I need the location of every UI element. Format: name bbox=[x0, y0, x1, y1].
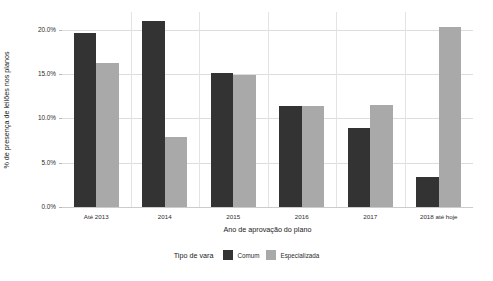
bar-especializada-4[interactable] bbox=[370, 105, 393, 207]
plot-area bbox=[62, 12, 473, 207]
gridline-x bbox=[199, 12, 200, 207]
bar-especializada-5[interactable] bbox=[439, 27, 462, 207]
bar-comum-2[interactable] bbox=[211, 73, 234, 207]
legend-item-comum[interactable]: Comum bbox=[223, 250, 259, 260]
bar-comum-1[interactable] bbox=[142, 21, 165, 207]
y-tick-label: 10.0% bbox=[16, 114, 56, 122]
gridline-x bbox=[336, 12, 337, 207]
chart-figure: % de presença de leilões nos planos 0.0%… bbox=[0, 0, 493, 281]
x-tick-label: 2016 bbox=[268, 212, 337, 221]
legend-title: Tipo de vara bbox=[174, 251, 214, 260]
legend-item-especializada[interactable]: Especializada bbox=[266, 250, 319, 260]
legend-label-especializada: Especializada bbox=[280, 252, 319, 259]
bar-comum-3[interactable] bbox=[279, 106, 302, 207]
x-tick-label: 2014 bbox=[131, 212, 200, 221]
bar-comum-0[interactable] bbox=[74, 33, 97, 207]
bar-especializada-2[interactable] bbox=[233, 75, 256, 207]
x-tick-label: 2017 bbox=[336, 212, 405, 221]
bar-comum-4[interactable] bbox=[348, 128, 371, 207]
bar-especializada-0[interactable] bbox=[96, 63, 119, 207]
x-tick-label: Até 2013 bbox=[62, 212, 131, 221]
x-tick-label: 2018 até hoje bbox=[405, 212, 474, 221]
legend-label-comum: Comum bbox=[237, 252, 259, 259]
x-tick-label: 2015 bbox=[199, 212, 268, 221]
bar-especializada-1[interactable] bbox=[165, 137, 188, 207]
chart-legend: Tipo de vara Comum Especializada bbox=[0, 250, 493, 260]
gridline-x bbox=[131, 12, 132, 207]
bar-comum-5[interactable] bbox=[416, 177, 439, 207]
y-tick-label: 5.0% bbox=[16, 159, 56, 167]
legend-swatch-especializada bbox=[266, 250, 276, 260]
gridline-x bbox=[268, 12, 269, 207]
y-tick-label: 15.0% bbox=[16, 70, 56, 78]
legend-swatch-comum bbox=[223, 250, 233, 260]
y-axis-title: % de presença de leilões nos planos bbox=[0, 5, 14, 215]
bar-especializada-3[interactable] bbox=[302, 106, 325, 207]
y-tick-label: 0.0% bbox=[16, 203, 56, 211]
gridline-x bbox=[405, 12, 406, 207]
x-axis-line bbox=[62, 207, 473, 208]
x-axis-title: Ano de aprovação do plano bbox=[62, 225, 473, 234]
y-tick-label: 20.0% bbox=[16, 26, 56, 34]
